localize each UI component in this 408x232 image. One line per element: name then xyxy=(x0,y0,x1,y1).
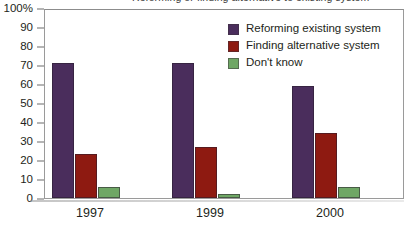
y-axis-label: 80 xyxy=(20,41,33,53)
bar xyxy=(75,154,97,198)
legend-swatch-icon xyxy=(228,24,239,35)
chart-title-cropped: Reforming or finding alternative to exis… xyxy=(0,0,408,7)
y-axis-tick xyxy=(37,123,44,124)
y-axis-label: 40 xyxy=(20,117,33,129)
legend-item[interactable]: Reforming existing system xyxy=(228,21,381,37)
y-axis-tick xyxy=(37,85,44,86)
y-axis: 0102030405060708090100% xyxy=(0,8,44,200)
bar xyxy=(98,187,120,198)
x-axis-label: 1997 xyxy=(76,206,104,220)
y-axis-tick xyxy=(37,47,44,48)
y-axis-label: 50 xyxy=(20,98,33,110)
legend-item[interactable]: Don't know xyxy=(228,55,381,71)
y-axis-label: 20 xyxy=(20,155,33,167)
legend-label: Finding alternative system xyxy=(246,40,380,52)
legend-swatch-icon xyxy=(228,41,239,52)
y-axis-label: 30 xyxy=(20,136,33,148)
bar xyxy=(292,86,314,198)
bar xyxy=(172,63,194,198)
legend-label: Reforming existing system xyxy=(246,23,381,35)
y-axis-label: 0 xyxy=(27,193,33,205)
legend-item[interactable]: Finding alternative system xyxy=(228,38,381,54)
bar xyxy=(315,133,337,198)
baseline-shadow xyxy=(30,200,404,202)
y-axis-label: 70 xyxy=(20,60,33,72)
bar xyxy=(195,147,217,198)
y-axis-label: 100% xyxy=(4,3,33,15)
y-axis-label: 90 xyxy=(20,22,33,34)
y-axis-tick xyxy=(37,66,44,67)
y-axis-tick xyxy=(37,104,44,105)
x-axis-label: 2000 xyxy=(316,206,344,220)
legend-swatch-icon xyxy=(228,58,239,69)
x-axis-label: 1999 xyxy=(196,206,224,220)
y-axis-label: 60 xyxy=(20,79,33,91)
chart-title: Reforming or finding alternative to exis… xyxy=(132,0,369,3)
y-axis-tick xyxy=(37,142,44,143)
bar xyxy=(52,63,74,198)
y-axis-tick xyxy=(37,9,44,10)
bar xyxy=(218,194,240,198)
y-axis-label: 10 xyxy=(20,174,33,186)
legend-label: Don't know xyxy=(246,57,303,69)
y-axis-tick xyxy=(37,161,44,162)
bar-chart: Reforming or finding alternative to exis… xyxy=(0,0,408,232)
bar xyxy=(338,187,360,198)
y-axis-tick xyxy=(37,180,44,181)
y-axis-tick xyxy=(37,28,44,29)
chart-legend: Reforming existing systemFinding alterna… xyxy=(228,21,381,72)
